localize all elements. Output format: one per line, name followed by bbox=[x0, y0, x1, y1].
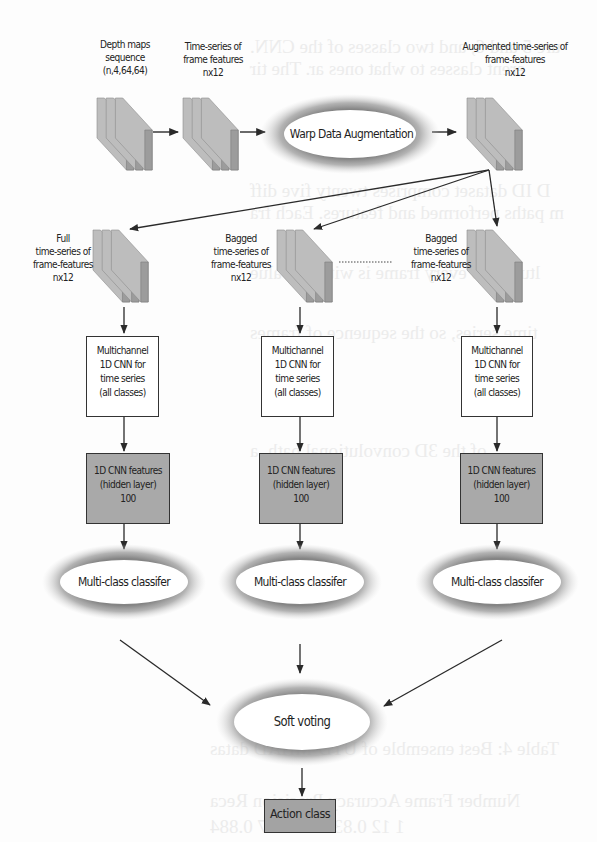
label-line: time-series of bbox=[24, 245, 101, 258]
label-line: Augmented time-series of bbox=[451, 40, 580, 53]
label-line: Depth maps bbox=[82, 38, 168, 51]
label-line: 1D CNN for bbox=[467, 357, 527, 371]
label-line: (hidden layer) bbox=[266, 477, 337, 491]
cnn-features-box: 1D CNN features (hidden layer) 100 bbox=[86, 453, 170, 524]
label-line: frame-features bbox=[451, 53, 580, 66]
label-line: Time-series of bbox=[170, 40, 256, 53]
soft-voting-label: Soft voting bbox=[259, 713, 345, 729]
action-class-box: Action class bbox=[264, 799, 336, 833]
label-line: Bagged bbox=[202, 232, 279, 245]
label-line: frame-features bbox=[402, 258, 479, 271]
label-line: Multichannel bbox=[92, 343, 153, 357]
label-line: frame-features bbox=[202, 258, 279, 271]
label-line: (n,4,64,64) bbox=[82, 64, 168, 77]
label-line: time series bbox=[267, 371, 328, 385]
arrow bbox=[130, 170, 489, 229]
classifier-label: Multi-class classifer bbox=[445, 574, 548, 589]
augmented-features-label: Augmented time-series of frame-features … bbox=[451, 40, 580, 79]
label-line: Bagged bbox=[402, 232, 479, 245]
label-line: time series bbox=[92, 371, 153, 385]
label-line: frame-features bbox=[24, 258, 101, 271]
label-line: 100 bbox=[467, 491, 537, 505]
label-line: 100 bbox=[93, 491, 164, 505]
label-line: Multichannel bbox=[467, 343, 527, 357]
full-series-label: Full time-series of frame-features nx12 bbox=[24, 232, 101, 284]
label-line: 1D CNN for bbox=[92, 357, 153, 371]
arrow bbox=[314, 170, 489, 229]
arrow bbox=[489, 170, 497, 226]
arrow bbox=[384, 640, 502, 706]
figure-page: ure 5 and 6, and two classes of the CNN.… bbox=[0, 0, 597, 842]
classifier-label: Multi-class classifer bbox=[72, 574, 175, 589]
depth-maps-label: Depth maps sequence (n,4,64,64) bbox=[82, 38, 168, 77]
label-line: 1D CNN features bbox=[93, 463, 164, 477]
label-line: Full bbox=[24, 232, 101, 245]
label-line: (hidden layer) bbox=[467, 477, 537, 491]
label-line: time-series of bbox=[202, 245, 279, 258]
cnn-features-box: 1D CNN features (hidden layer) 100 bbox=[460, 453, 543, 524]
action-class-label: Action class bbox=[270, 807, 330, 821]
bagged-series-label: Bagged time-series of frame-features nx1… bbox=[202, 232, 279, 284]
label-line: (all classes) bbox=[92, 385, 153, 399]
label-line: 1D CNN features bbox=[266, 463, 337, 477]
label-line: nx12 bbox=[402, 271, 479, 284]
frame-features-stack-icon bbox=[183, 98, 238, 170]
label-line: (all classes) bbox=[267, 385, 328, 399]
frame-features-label: Time-series of frame features nx12 bbox=[170, 40, 256, 79]
label-line: (hidden layer) bbox=[93, 477, 164, 491]
warp-augmentation-label: Warp Data Augmentation bbox=[290, 126, 410, 141]
label-line: 100 bbox=[266, 491, 337, 505]
label-line: 1D CNN features bbox=[467, 463, 537, 477]
label-line: nx12 bbox=[24, 271, 101, 284]
label-line: nx12 bbox=[451, 66, 580, 79]
bagged-series-label: Bagged time-series of frame-features nx1… bbox=[402, 232, 479, 284]
cnn-box: Multichannel 1D CNN for time series (all… bbox=[86, 336, 159, 417]
label-line: nx12 bbox=[202, 271, 279, 284]
label-line: Multichannel bbox=[267, 343, 328, 357]
cnn-box: Multichannel 1D CNN for time series (all… bbox=[261, 336, 334, 417]
augmented-features-stack-icon bbox=[467, 98, 522, 170]
label-line: frame features bbox=[170, 53, 256, 66]
arrow bbox=[120, 640, 210, 705]
label-line: 1D CNN for bbox=[267, 357, 328, 371]
depth-maps-stack-icon bbox=[97, 98, 152, 170]
cnn-features-box: 1D CNN features (hidden layer) 100 bbox=[259, 453, 343, 524]
classifier-label: Multi-class classifer bbox=[248, 574, 351, 589]
label-line: nx12 bbox=[170, 66, 256, 79]
cnn-box: Multichannel 1D CNN for time series (all… bbox=[461, 336, 533, 417]
label-line: time-series of bbox=[402, 245, 479, 258]
label-line: (all classes) bbox=[467, 385, 527, 399]
label-line: sequence bbox=[82, 51, 168, 64]
label-line: time series bbox=[467, 371, 527, 385]
bagged-series-stack-icon bbox=[277, 230, 332, 302]
